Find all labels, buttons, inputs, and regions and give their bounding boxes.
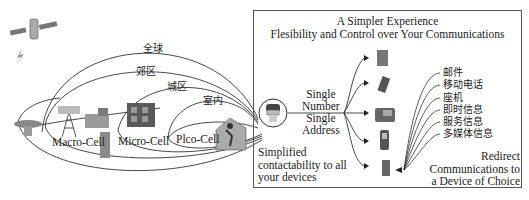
service-multimedia: 多媒体信息	[443, 129, 493, 139]
zone-label-global: 全球	[143, 44, 163, 54]
service-email: 邮件	[443, 68, 463, 78]
simplified-contactability: Simplified contactability to all your de…	[258, 146, 347, 184]
panel-title: A Simpler Experience Flesibility and Con…	[253, 15, 522, 41]
cell-label-micro: Micro-Cell	[118, 136, 169, 148]
panel-title-line1: A Simpler Experience	[253, 15, 522, 28]
single-address-line1: Single	[302, 112, 340, 124]
simplified-line1: Simplified	[258, 146, 347, 159]
service-mobile: 移动电话	[443, 80, 483, 90]
cell-label-pico: Plco-Cell	[176, 134, 219, 146]
house-icon	[216, 118, 246, 150]
single-number-line1: Single	[302, 88, 340, 100]
city-buildings-icon	[85, 108, 110, 158]
zone-label-indoor: 室内	[203, 96, 223, 106]
single-number-line2: Number	[302, 100, 340, 112]
zone-label-urban: 城区	[167, 82, 187, 92]
single-address-line2: Address	[302, 124, 340, 136]
redirect-line3: a Device of Choice	[430, 175, 520, 188]
satellite-dish-icon	[14, 120, 42, 136]
lightning-icon	[15, 48, 24, 66]
cell-label-macro: Macro-Cell	[52, 137, 105, 149]
service-im: 即时信息	[443, 105, 483, 115]
panel-title-line2: Flesibility and Control over Your Commun…	[253, 28, 522, 41]
simplified-line3: your devices	[258, 171, 347, 184]
single-number-address: Single Number Single Address	[302, 88, 340, 136]
service-landline: 座机	[443, 93, 463, 103]
service-info: 服务信息	[443, 117, 483, 127]
simplified-line2: contactability to all	[258, 159, 347, 172]
zone-label-suburban: 郊区	[136, 67, 156, 77]
office-building-icon	[127, 103, 155, 127]
redirect-communications: Redirect Communications to a Device of C…	[430, 150, 520, 188]
redirect-line2: Communications to	[430, 163, 520, 176]
satellite-icon	[10, 19, 58, 39]
redirect-line1: Redirect	[430, 150, 520, 163]
